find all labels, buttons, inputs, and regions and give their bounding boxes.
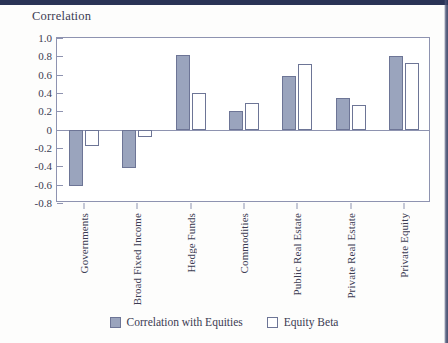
y-tick-label: 0.8	[12, 50, 52, 62]
y-tick-mark	[57, 38, 63, 39]
bar-hollow-6	[405, 63, 419, 130]
y-tick-mark	[57, 166, 63, 167]
x-axis-label: Hedge Funds	[185, 213, 197, 272]
y-tick-label: 1.0	[12, 32, 52, 44]
bar-filled-4	[282, 76, 296, 130]
page-title: Correlation	[32, 9, 91, 24]
legend-swatch-filled	[110, 317, 121, 328]
bar-hollow-4	[298, 64, 312, 130]
y-tick-label: -0.8	[12, 197, 52, 209]
x-tick-mark	[137, 203, 138, 209]
legend-label: Equity Beta	[284, 316, 339, 328]
scan-edge-band-right	[444, 0, 448, 343]
bar-hollow-0	[85, 130, 99, 147]
plot-area: 1.00.80.60.40.20-0.2-0.4-0.6-0.8 Governm…	[56, 37, 430, 202]
scan-edge-band-top	[0, 0, 448, 5]
x-axis-label: Broad Fixed Income	[131, 213, 143, 305]
y-tick-label: -0.4	[12, 160, 52, 172]
bar-filled-5	[336, 98, 350, 130]
chart-legend: Correlation with EquitiesEquity Beta	[0, 316, 448, 328]
y-tick-mark	[57, 75, 63, 76]
x-tick-mark	[350, 203, 351, 209]
y-tick-label: 0.4	[12, 87, 52, 99]
x-axis-label: Public Real Estate	[291, 213, 303, 295]
x-axis-label: Private Real Estate	[345, 213, 357, 299]
x-tick-mark	[190, 203, 191, 209]
x-tick-mark	[83, 203, 84, 209]
legend-item[interactable]: Equity Beta	[267, 316, 339, 328]
y-tick-label: 0.2	[12, 105, 52, 117]
bar-filled-3	[229, 111, 243, 129]
x-tick-mark	[404, 203, 405, 209]
x-tick-mark	[297, 203, 298, 209]
y-tick-mark	[57, 148, 63, 149]
legend-label: Correlation with Equities	[127, 316, 243, 328]
bar-hollow-3	[245, 103, 259, 130]
x-axis-label: Governments	[78, 213, 90, 273]
y-tick-mark	[57, 111, 63, 112]
zero-baseline	[57, 130, 429, 131]
y-tick-mark	[57, 56, 63, 57]
chart-page: Correlation 1.00.80.60.40.20-0.2-0.4-0.6…	[0, 0, 448, 343]
bar-hollow-2	[192, 93, 206, 130]
bar-filled-2	[176, 55, 190, 130]
y-tick-label: -0.6	[12, 179, 52, 191]
bar-filled-6	[389, 56, 403, 129]
legend-item[interactable]: Correlation with Equities	[110, 316, 243, 328]
bar-filled-0	[69, 130, 83, 186]
bar-filled-1	[122, 130, 136, 169]
y-tick-label: 0.6	[12, 69, 52, 81]
bar-hollow-5	[352, 105, 366, 130]
y-tick-mark	[57, 93, 63, 94]
legend-swatch-hollow	[267, 317, 278, 328]
x-axis-label: Private Equity	[398, 213, 410, 278]
bar-hollow-1	[138, 130, 152, 137]
x-tick-mark	[244, 203, 245, 209]
y-tick-mark	[57, 185, 63, 186]
y-tick-label: 0	[12, 124, 52, 136]
y-tick-mark	[57, 203, 63, 204]
x-axis-label: Commodities	[238, 213, 250, 273]
y-tick-label: -0.2	[12, 142, 52, 154]
